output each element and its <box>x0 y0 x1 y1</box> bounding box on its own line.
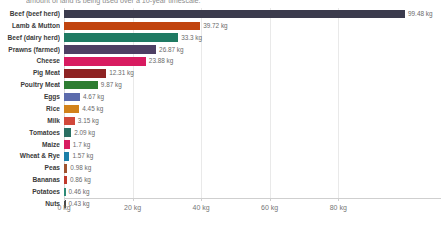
bar-zone: 4.45 kg <box>64 103 441 115</box>
bar-value-label: 2.09 kg <box>71 129 95 137</box>
bar[interactable] <box>64 10 405 19</box>
bar-value-label: 1.57 kg <box>69 152 93 160</box>
axis-tick-label: 80 kg <box>330 203 347 212</box>
bar-row[interactable]: Beef (dairy herd)33.3 kg <box>0 32 441 44</box>
bar-category-label: Eggs <box>0 93 60 101</box>
axis-tick-label: 20 kg <box>124 203 141 212</box>
bar-category-label: Poultry Meat <box>0 81 60 89</box>
bar-zone: 12.31 kg <box>64 67 441 79</box>
bar-value-label: 0.86 kg <box>67 176 91 184</box>
bar-value-label: 4.45 kg <box>79 105 103 113</box>
bar-zone: 9.87 kg <box>64 79 441 91</box>
bar-row[interactable]: Pig Meat12.31 kg <box>0 67 441 79</box>
bar-zone: 1.57 kg <box>64 151 441 163</box>
bar-category-label: Milk <box>0 117 60 125</box>
bar[interactable] <box>64 69 106 78</box>
bar-value-label: 0.98 kg <box>67 164 91 172</box>
bar-category-label: Pig Meat <box>0 69 60 77</box>
bar-category-label: Peas <box>0 164 60 172</box>
bar-row[interactable]: Bananas0.86 kg <box>0 174 441 186</box>
bar-row[interactable]: Tomatoes2.09 kg <box>0 127 441 139</box>
bar-value-label: 0.46 kg <box>66 188 90 196</box>
plot-area: Beef (beef herd)99.48 kgLamb & Mutton39.… <box>0 8 441 198</box>
bar-category-label: Potatoes <box>0 188 60 196</box>
x-axis: 0 kg20 kg40 kg60 kg80 kg <box>0 198 441 225</box>
bar-category-label: Beef (beef herd) <box>0 10 60 18</box>
bar-value-label: 39.72 kg <box>200 22 228 30</box>
axis-tick <box>201 198 202 201</box>
bar-row[interactable]: Wheat & Rye1.57 kg <box>0 151 441 163</box>
bar[interactable] <box>64 93 80 102</box>
axis-tick-label: 0 kg <box>57 203 70 212</box>
bar-zone: 33.3 kg <box>64 32 441 44</box>
chart-title: amount of land is being used over a 10-y… <box>26 0 436 5</box>
bar-value-label: 23.88 kg <box>146 57 174 65</box>
x-axis-line <box>64 198 441 199</box>
bar[interactable] <box>64 57 146 66</box>
bar-value-label: 4.67 kg <box>80 93 104 101</box>
bar-value-label: 3.15 kg <box>75 117 99 125</box>
bar-chart: amount of land is being used over a 10-y… <box>0 0 441 225</box>
axis-tick <box>338 198 339 201</box>
bar[interactable] <box>64 105 79 114</box>
bar-category-label: Prawns (farmed) <box>0 46 60 54</box>
axis-tick <box>270 198 271 201</box>
bar-value-label: 9.87 kg <box>98 81 122 89</box>
axis-tick-label: 60 kg <box>261 203 278 212</box>
bar-zone: 2.09 kg <box>64 127 441 139</box>
bar-row[interactable]: Maize1.7 kg <box>0 139 441 151</box>
bar-zone: 26.87 kg <box>64 44 441 56</box>
bar[interactable] <box>64 81 98 90</box>
bar-category-label: Lamb & Mutton <box>0 22 60 30</box>
bar-row[interactable]: Milk3.15 kg <box>0 115 441 127</box>
bar-category-label: Tomatoes <box>0 129 60 137</box>
bar-category-label: Cheese <box>0 57 60 65</box>
bar-category-label: Maize <box>0 141 60 149</box>
bar-row[interactable]: Cheese23.88 kg <box>0 56 441 68</box>
bar-row[interactable]: Peas0.98 kg <box>0 162 441 174</box>
bar-category-label: Bananas <box>0 176 60 184</box>
bar-rows: Beef (beef herd)99.48 kgLamb & Mutton39.… <box>0 8 441 198</box>
bar-row[interactable]: Eggs4.67 kg <box>0 91 441 103</box>
bar-zone: 0.98 kg <box>64 162 441 174</box>
bar-row[interactable]: Prawns (farmed)26.87 kg <box>0 44 441 56</box>
bar[interactable] <box>64 33 178 42</box>
bar-zone: 99.48 kg <box>64 8 441 20</box>
bar[interactable] <box>64 45 156 54</box>
bar[interactable] <box>64 117 75 126</box>
bar[interactable] <box>64 22 200 31</box>
bar-row[interactable]: Beef (beef herd)99.48 kg <box>0 8 441 20</box>
bar-zone: 3.15 kg <box>64 115 441 127</box>
bar-zone: 1.7 kg <box>64 139 441 151</box>
axis-tick <box>133 198 134 201</box>
bar-value-label: 12.31 kg <box>106 69 134 77</box>
bar-zone: 4.67 kg <box>64 91 441 103</box>
bar-value-label: 1.7 kg <box>70 141 90 149</box>
bar-row[interactable]: Rice4.45 kg <box>0 103 441 115</box>
bar-zone: 23.88 kg <box>64 56 441 68</box>
bar-category-label: Rice <box>0 105 60 113</box>
bar-value-label: 99.48 kg <box>405 10 433 18</box>
bar-zone: 39.72 kg <box>64 20 441 32</box>
bar-row[interactable]: Potatoes0.46 kg <box>0 186 441 198</box>
bar-category-label: Wheat & Rye <box>0 152 60 160</box>
bar-zone: 0.86 kg <box>64 174 441 186</box>
bar-value-label: 33.3 kg <box>178 34 202 42</box>
axis-tick <box>64 198 65 201</box>
bar-zone: 0.46 kg <box>64 186 441 198</box>
bar-category-label: Beef (dairy herd) <box>0 34 60 42</box>
bar-row[interactable]: Poultry Meat9.87 kg <box>0 79 441 91</box>
bar-value-label: 26.87 kg <box>156 46 184 54</box>
axis-tick-label: 40 kg <box>193 203 210 212</box>
bar[interactable] <box>64 128 71 137</box>
bar-row[interactable]: Lamb & Mutton39.72 kg <box>0 20 441 32</box>
